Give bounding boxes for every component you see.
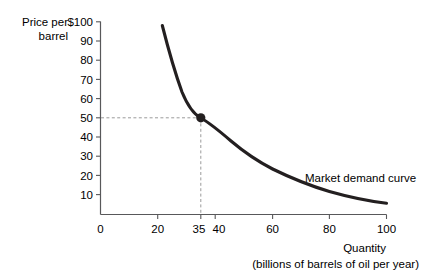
x-tick-label-35: 35 xyxy=(193,223,206,235)
chart-svg: Price per barrel $100 90 80 70 60 50 40 … xyxy=(0,0,429,279)
y-axis-title-line1: Price per xyxy=(22,16,68,28)
x-tick-label-60: 60 xyxy=(266,223,279,235)
x-tick-label-80: 80 xyxy=(323,223,336,235)
y-tick-label-10: 10 xyxy=(80,189,93,201)
equilibrium-point-dot xyxy=(196,113,205,122)
y-tick-label-90: 90 xyxy=(80,35,93,47)
x-axis-sublabel: (billions of barrels of oil per year) xyxy=(252,258,419,270)
y-tick-label-80: 80 xyxy=(80,54,93,66)
y-tick-label-20: 20 xyxy=(80,170,93,182)
demand-curve-chart: Price per barrel $100 90 80 70 60 50 40 … xyxy=(0,0,429,279)
y-tick-label-30: 30 xyxy=(80,150,93,162)
y-tick-label-60: 60 xyxy=(80,93,93,105)
y-tick-label-50: 50 xyxy=(80,112,93,124)
y-axis-title-line2: barrel xyxy=(39,30,68,42)
y-tick-label-100: $100 xyxy=(67,16,93,28)
y-tick-label-40: 40 xyxy=(80,131,93,143)
y-tick-label-70: 70 xyxy=(80,74,93,86)
x-tick-label-20: 20 xyxy=(151,223,164,235)
market-demand-curve-label: Market demand curve xyxy=(305,172,416,184)
x-tick-label-100: 100 xyxy=(377,223,396,235)
x-axis-label: Quantity xyxy=(343,242,386,254)
x-tick-label-0: 0 xyxy=(97,223,103,235)
x-tick-label-40: 40 xyxy=(213,223,226,235)
